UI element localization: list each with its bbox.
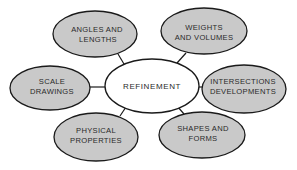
- diagram-canvas: ANGLES AND LENGTHS WEIGHTS AND VOLUMES S…: [0, 0, 297, 170]
- node-label-line2: AND VOLUMES: [175, 33, 234, 42]
- center-node-refinement: REFINEMENT: [105, 59, 199, 113]
- node-weights-and-volumes: WEIGHTS AND VOLUMES: [161, 8, 247, 54]
- center-label: REFINEMENT: [123, 82, 181, 91]
- connector-angles: [118, 54, 124, 64]
- node-scale-drawings: SCALE DRAWINGS: [10, 66, 90, 110]
- connector-weights: [177, 53, 186, 63]
- node-label-line2: PROPERTIES: [70, 136, 122, 145]
- node-label-line1: INTERSECTIONS: [210, 77, 276, 86]
- node-angles-and-lengths: ANGLES AND LENGTHS: [53, 11, 137, 57]
- node-label-line1: SHAPES AND: [177, 124, 229, 133]
- node-label-line2: DRAWINGS: [30, 87, 74, 96]
- node-label-line1: SCALE: [39, 77, 65, 86]
- node-label-line1: PHYSICAL: [76, 126, 116, 135]
- node-label-line2: FORMS: [189, 134, 218, 143]
- node-ellipse: [53, 11, 137, 57]
- node-shapes-and-forms: SHAPES AND FORMS: [159, 112, 245, 158]
- node-physical-properties: PHYSICAL PROPERTIES: [54, 113, 138, 161]
- node-label-line2: LENGTHS: [79, 35, 117, 44]
- node-label-line2: DEVELOPMENTS: [210, 87, 276, 96]
- node-label-line1: ANGLES AND: [71, 25, 123, 34]
- node-intersections-developments: INTERSECTIONS DEVELOPMENTS: [202, 65, 286, 113]
- refinement-diagram: ANGLES AND LENGTHS WEIGHTS AND VOLUMES S…: [0, 0, 297, 170]
- node-label-line1: WEIGHTS: [185, 23, 223, 32]
